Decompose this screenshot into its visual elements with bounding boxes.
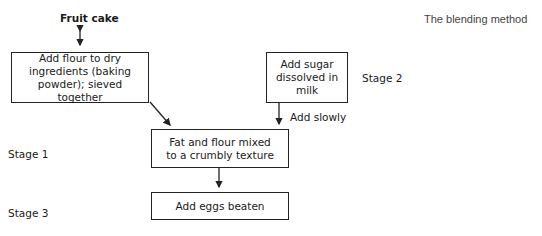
fruit-cake-label: Fruit cake	[60, 12, 119, 24]
box-add-sugar: Add sugar dissolved in milk	[266, 52, 348, 103]
box-fat-and-flour: Fat and flour mixed to a crumbly texture	[151, 129, 289, 168]
edge-label-add-slowly: Add slowly	[290, 111, 346, 123]
box-add-eggs: Add eggs beaten	[151, 192, 289, 220]
box-add-flour: Add flour to dry ingredients (baking pow…	[11, 52, 149, 103]
stage-3-label: Stage 3	[8, 207, 48, 219]
stage-1-label: Stage 1	[8, 148, 48, 160]
stage-2-label: Stage 2	[362, 72, 402, 84]
arrow-flour-to-fat	[150, 102, 170, 125]
diagram-title: The blending method	[424, 13, 527, 25]
